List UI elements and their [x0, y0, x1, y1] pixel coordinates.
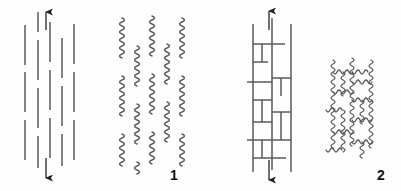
panel-linear-extended	[25, 12, 74, 168]
panel-network-coiled	[326, 58, 373, 158]
panel-network-extended	[247, 18, 291, 172]
panel-label-one: 1	[170, 168, 178, 182]
diagram-canvas	[0, 0, 401, 191]
panel-label-two: 2	[377, 168, 385, 182]
polymer-chain-diagram: 1 2	[0, 0, 401, 191]
panel-linear-coiled	[120, 16, 185, 174]
